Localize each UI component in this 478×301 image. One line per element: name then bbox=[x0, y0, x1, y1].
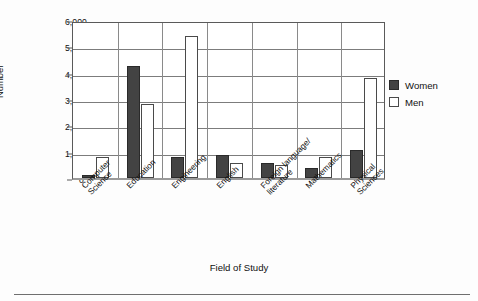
x-axis-title: Field of Study bbox=[0, 262, 478, 273]
gridline bbox=[73, 49, 384, 50]
bar-women bbox=[127, 66, 140, 178]
chart-page: Number 6,0005,0004,0003,0002,0001,0000 C… bbox=[0, 0, 478, 301]
page-divider bbox=[14, 294, 470, 295]
category-separator bbox=[207, 23, 208, 178]
legend-item-women: Women bbox=[389, 79, 438, 91]
legend-swatch-women-icon bbox=[389, 80, 399, 90]
gridline bbox=[73, 128, 384, 129]
chart-legend: Women Men bbox=[389, 79, 438, 113]
gridline bbox=[73, 102, 384, 103]
category-separator bbox=[162, 23, 163, 178]
category-separator bbox=[252, 23, 253, 178]
legend-label-women: Women bbox=[405, 80, 438, 91]
legend-item-men: Men bbox=[389, 96, 438, 108]
y-axis-title: Number bbox=[0, 65, 5, 98]
category-separator bbox=[118, 23, 119, 178]
legend-label-men: Men bbox=[405, 97, 424, 108]
gridline bbox=[73, 76, 384, 77]
legend-swatch-men-icon bbox=[389, 97, 399, 107]
